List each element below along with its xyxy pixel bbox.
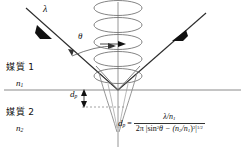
- propagation-arrowhead: [118, 41, 126, 47]
- wavelength-label: λ: [43, 4, 47, 14]
- medium-2-label: 媒質 2: [6, 108, 35, 117]
- penetration-depth-formula: dp = λ/n1 2π |sin2θ − (n2/n1)2|1/2: [118, 113, 205, 134]
- decay-envelope-left: [99, 73, 117, 132]
- formula-denominator: 2π |sin2θ − (n2/n1)2|1/2: [134, 123, 205, 134]
- penetration-depth-label: dp: [70, 90, 77, 100]
- evanescent-wave-diagram: 媒質 1 n1 媒質 2 n2 λ θ dp dp = λ/n1 2π |sin…: [0, 0, 245, 149]
- formula-den-prefix: 2π |sin: [136, 124, 157, 133]
- reflected-ray-arrowhead: [172, 30, 188, 41]
- angle-arc-tail-tick: [68, 49, 74, 56]
- formula-den-theta: θ − (n: [159, 124, 179, 133]
- n1-subscript: 1: [21, 82, 24, 88]
- n2-subscript: 2: [21, 127, 24, 133]
- medium-1-label: 媒質 1: [6, 63, 35, 72]
- formula-den-power: 1/2: [197, 125, 203, 130]
- formula-lhs-subscript: p: [123, 122, 126, 128]
- formula-lhs: dp: [118, 119, 125, 129]
- formula-numerator: λ/n1: [159, 113, 179, 123]
- dp-subscript: p: [75, 93, 78, 99]
- reflected-ray: [118, 13, 206, 90]
- incident-ray-arrowhead: [35, 25, 52, 39]
- formula-numerator-text: λ/n: [163, 112, 173, 121]
- medium-2-index-label: n2: [16, 124, 23, 134]
- medium-1-index-label: n1: [16, 79, 23, 89]
- formula-numerator-subscript: 1: [173, 116, 175, 121]
- incidence-angle-label: θ: [78, 32, 82, 41]
- formula-equals: =: [127, 120, 132, 128]
- incident-ray: [26, 8, 118, 90]
- formula-fraction: λ/n1 2π |sin2θ − (n2/n1)2|1/2: [134, 113, 205, 134]
